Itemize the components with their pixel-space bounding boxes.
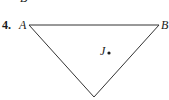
triangle-shape — [29, 25, 159, 97]
triangle-figure — [0, 0, 169, 100]
point-j-dot — [107, 51, 110, 54]
